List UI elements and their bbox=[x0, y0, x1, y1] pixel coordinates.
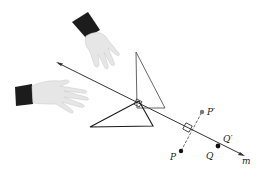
upper-hand-icon bbox=[72, 12, 119, 69]
line-m bbox=[56, 62, 245, 156]
label-q-prime: Q′ bbox=[223, 134, 232, 144]
lower-hand-icon bbox=[15, 80, 89, 113]
point-q bbox=[216, 144, 221, 149]
reflection-diagram: P′ P Q′ Q m bbox=[0, 0, 264, 174]
perpendicular-segment bbox=[181, 112, 202, 151]
label-q: Q bbox=[206, 151, 214, 161]
label-m: m bbox=[242, 156, 251, 166]
label-p-prime: P′ bbox=[206, 107, 215, 117]
point-p-prime bbox=[200, 110, 204, 114]
triangle-image bbox=[136, 52, 165, 108]
label-p: P bbox=[169, 152, 177, 162]
point-p bbox=[179, 149, 183, 153]
triangle-original bbox=[90, 101, 153, 127]
